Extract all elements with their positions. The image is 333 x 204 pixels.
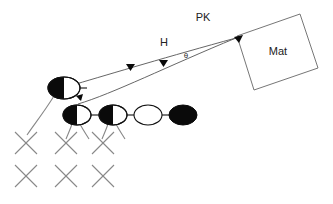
ellipse-bottom-4[interactable] <box>169 105 197 125</box>
x-mark <box>15 132 37 154</box>
x-mark <box>15 165 37 187</box>
x-mark <box>55 165 77 187</box>
drop-line-b2-left <box>102 124 108 139</box>
diagram-canvas: Mat <box>0 0 333 204</box>
ellipse-bottom-1-group[interactable] <box>63 105 91 125</box>
label-pk: PK <box>196 11 211 23</box>
drop-line-b2-right <box>116 124 125 139</box>
drop-line-b1-left <box>66 124 72 139</box>
trajectory-upper <box>76 38 236 84</box>
trajectory-lower <box>78 38 236 104</box>
x-mark <box>92 165 114 187</box>
drop-line-left <box>27 96 54 135</box>
label-h: H <box>160 36 168 48</box>
arrowhead-mat-entry <box>234 35 243 43</box>
label-theta: θ <box>184 51 189 60</box>
arrowhead-lower-mid <box>159 60 168 67</box>
ellipse-bottom-2-group[interactable] <box>99 105 127 125</box>
diagram-svg: Mat <box>0 0 333 204</box>
mat-box-label: Mat <box>269 45 287 57</box>
ellipse-bottom-3[interactable] <box>134 105 162 125</box>
mat-box-group[interactable]: Mat <box>237 14 318 90</box>
drop-line-b1-right <box>80 124 89 139</box>
ellipse-top-left-group[interactable] <box>48 77 80 99</box>
x-marks-grid <box>15 132 114 187</box>
x-mark <box>55 132 77 154</box>
